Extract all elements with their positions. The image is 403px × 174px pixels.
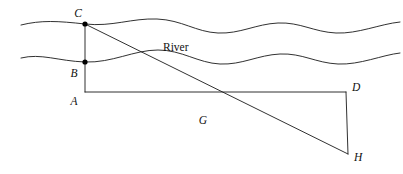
figure-canvas: C B A D H G River <box>0 0 403 174</box>
river-top-bank <box>21 19 400 33</box>
river-bottom-bank <box>21 50 400 64</box>
point-label-g: G <box>199 114 208 126</box>
point-label-b: B <box>70 67 77 79</box>
segment-c-h <box>85 24 348 154</box>
point-label-d: D <box>351 81 361 93</box>
river-geometry-figure: C B A D H G River <box>0 0 403 174</box>
point-label-h: H <box>353 151 363 163</box>
vertex-dot-c <box>82 21 87 26</box>
point-label-a: A <box>69 95 78 107</box>
vertex-dot-b <box>82 59 87 64</box>
river-label: River <box>163 41 189 53</box>
segment-d-h <box>346 92 348 154</box>
point-label-c: C <box>74 7 82 19</box>
